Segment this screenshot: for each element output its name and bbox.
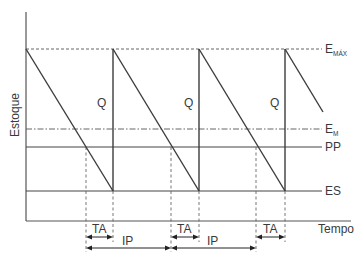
emax-label: EMÁX bbox=[325, 42, 348, 57]
ta-label-1: TA bbox=[92, 222, 106, 236]
y-axis-label: Estoque bbox=[8, 93, 22, 137]
em-label: EM bbox=[325, 122, 338, 137]
ip-label-1: IP bbox=[122, 234, 133, 248]
arrow-right-head bbox=[107, 235, 113, 240]
q-label-1: Q bbox=[97, 96, 106, 110]
consumption-line-1 bbox=[26, 49, 113, 191]
consumption-line-2 bbox=[113, 49, 199, 191]
ta-interval-1: TA bbox=[86, 222, 113, 240]
arrow-left-head bbox=[171, 246, 177, 251]
ip-label-2: IP bbox=[207, 234, 218, 248]
arrow-right-head bbox=[250, 246, 256, 251]
ip-interval-1: IP bbox=[86, 234, 171, 251]
emax-label-main: E bbox=[325, 42, 333, 56]
arrow-right-head bbox=[279, 235, 285, 240]
inventory-sawtooth-diagram: Q Q Q EMÁX EM PP ES Tempo Estoque TA TA … bbox=[0, 0, 358, 259]
ta-interval-2: TA bbox=[171, 222, 199, 240]
arrow-left-head bbox=[86, 246, 92, 251]
em-label-subscript: M bbox=[333, 130, 338, 137]
x-axis-label: Tempo bbox=[318, 222, 354, 236]
pp-label: PP bbox=[325, 140, 341, 154]
emax-label-subscript: MÁX bbox=[333, 49, 348, 57]
arrow-right-head bbox=[193, 235, 199, 240]
arrow-left-head bbox=[256, 235, 262, 240]
q-label-3: Q bbox=[270, 96, 279, 110]
es-label: ES bbox=[325, 184, 341, 198]
ta-label-3: TA bbox=[263, 222, 277, 236]
q-label-2: Q bbox=[184, 96, 193, 110]
ip-interval-2: IP bbox=[171, 234, 256, 251]
consumption-line-4 bbox=[285, 49, 323, 112]
ta-interval-3: TA bbox=[256, 222, 285, 240]
consumption-line-3 bbox=[199, 49, 285, 191]
ta-label-2: TA bbox=[177, 222, 191, 236]
arrow-right-head bbox=[165, 246, 171, 251]
em-label-main: E bbox=[325, 122, 333, 136]
